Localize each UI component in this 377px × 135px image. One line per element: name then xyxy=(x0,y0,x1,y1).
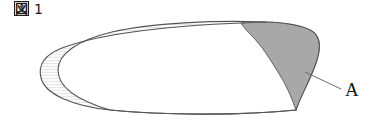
label-a: A xyxy=(345,79,359,100)
leader-line-a xyxy=(305,72,341,89)
figure-container: 図 1 A xyxy=(0,0,377,135)
shaded-region-a xyxy=(241,22,320,110)
figure-drawing: A xyxy=(0,0,377,135)
light-crescent-region xyxy=(40,21,265,110)
